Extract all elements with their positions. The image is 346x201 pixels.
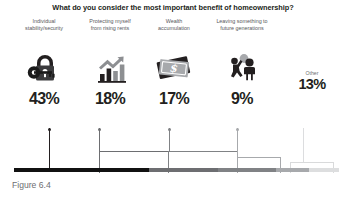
family-people-icon <box>198 48 286 88</box>
stem-wealth-accumulation <box>169 128 170 151</box>
svg-text:$: $ <box>169 62 178 76</box>
category-label: Individual stability/security <box>8 18 80 32</box>
stem-head-icon <box>236 128 239 131</box>
stem-protecting-from-rents <box>99 128 100 151</box>
baseline-segment-individual-stability <box>14 168 149 172</box>
stem-head-icon <box>168 128 171 131</box>
percent-value: 13% <box>286 76 338 92</box>
stem-other <box>303 128 304 162</box>
category-column-other: Other 13% <box>286 70 338 77</box>
baseline-segment-other <box>309 168 339 172</box>
percent-value: 43% <box>8 90 80 108</box>
category-label: Leaving something to future generations <box>198 18 286 32</box>
baseline-segment-wealth-accumulation <box>218 168 276 172</box>
category-column-protecting-from-rents: Protecting myself from rising rents 18% <box>74 18 146 32</box>
percent-value: 18% <box>74 90 146 108</box>
category-column-future-generations: Leaving something to future generations … <box>198 18 286 32</box>
figure-6-4: What do you consider the most important … <box>0 0 346 201</box>
chart-baseline <box>14 168 332 172</box>
baseline-segment-protecting-from-rents <box>149 168 218 172</box>
category-label: Protecting myself from rising rents <box>74 18 146 32</box>
bar-chart-growth-icon <box>74 48 146 88</box>
baseline-segment-future-generations <box>276 168 309 172</box>
figure-caption: Figure 6.4 <box>12 180 51 190</box>
skyline-step-chart <box>0 118 346 173</box>
stem-head-icon <box>48 128 51 131</box>
chart-title: What do you consider the most important … <box>0 3 346 12</box>
padlock-key-icon <box>8 48 80 88</box>
stem-future-generations <box>237 128 238 157</box>
stem-individual-stability <box>49 128 50 168</box>
percent-value: 9% <box>198 90 286 108</box>
category-column-individual-stability: Individual stability/security 43% <box>8 18 80 32</box>
stem-head-icon <box>98 128 101 131</box>
